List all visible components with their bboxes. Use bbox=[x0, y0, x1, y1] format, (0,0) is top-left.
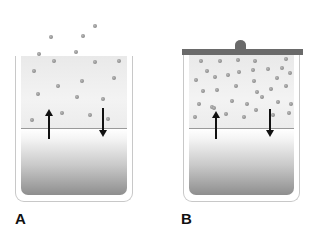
vapor-particle bbox=[280, 66, 284, 70]
vapor-particle bbox=[194, 78, 198, 82]
vapor-particle bbox=[260, 95, 264, 99]
vapor-particle bbox=[287, 111, 291, 115]
vapor-particle bbox=[245, 102, 249, 106]
vapor-particle bbox=[218, 59, 222, 63]
vapor-particle bbox=[251, 68, 255, 72]
vapor-particle bbox=[242, 115, 246, 119]
vapor-particle bbox=[52, 59, 56, 63]
vapor-particle bbox=[224, 112, 228, 116]
vapor-particle bbox=[234, 84, 238, 88]
vapor-particle bbox=[193, 115, 197, 119]
vapor-particle bbox=[212, 106, 216, 110]
condensation-arrow-icon bbox=[269, 109, 271, 132]
vapor-particle bbox=[49, 35, 53, 39]
vapor-particle bbox=[197, 102, 201, 106]
vapor-particle bbox=[275, 76, 279, 80]
vapor-particle bbox=[253, 59, 257, 63]
vapor-particle bbox=[101, 97, 105, 101]
vapor-particle bbox=[81, 34, 85, 38]
vapor-particle bbox=[276, 100, 280, 104]
vapor-particle bbox=[226, 73, 230, 77]
beaker-a-liquid bbox=[21, 129, 127, 195]
vapor-particle bbox=[288, 71, 292, 75]
vapor-particle bbox=[230, 99, 234, 103]
panel-b-closed-container: B bbox=[160, 0, 317, 243]
vapor-particle bbox=[255, 90, 259, 94]
condensation-arrow-icon bbox=[102, 108, 104, 132]
vapor-particle bbox=[80, 79, 84, 83]
lid-knob-icon bbox=[235, 40, 246, 50]
vapor-particle bbox=[252, 79, 256, 83]
evaporation-arrow-icon bbox=[215, 116, 217, 139]
vapor-particle bbox=[75, 95, 79, 99]
vapor-particle bbox=[60, 111, 64, 115]
vapor-particle bbox=[237, 70, 241, 74]
vapor-particle bbox=[205, 69, 209, 73]
vapor-particle bbox=[74, 50, 78, 54]
vapor-particle bbox=[269, 87, 273, 91]
evaporation-arrow-icon bbox=[48, 114, 50, 139]
vapor-particle bbox=[106, 117, 110, 121]
vapor-particle bbox=[254, 108, 258, 112]
vapor-particle bbox=[199, 59, 203, 63]
vapor-particle bbox=[56, 84, 60, 88]
vapor-particle bbox=[93, 24, 97, 28]
vapor-particle bbox=[93, 60, 97, 64]
vapor-particle bbox=[112, 76, 116, 80]
vapor-particle bbox=[30, 118, 34, 122]
vapor-particle bbox=[36, 92, 40, 96]
panel-a-label: A bbox=[15, 210, 26, 227]
vapor-particle bbox=[284, 84, 288, 88]
panel-b-label: B bbox=[181, 210, 192, 227]
vapor-particle bbox=[88, 113, 92, 117]
vapor-particle bbox=[117, 59, 121, 63]
vapor-particle bbox=[266, 67, 270, 71]
vapor-particle bbox=[215, 88, 219, 92]
vapor-particle bbox=[213, 75, 217, 79]
vapor-particle bbox=[32, 69, 36, 73]
vapor-particle bbox=[236, 58, 240, 62]
vapor-particle bbox=[284, 57, 288, 61]
vapor-particle bbox=[37, 52, 41, 56]
vapor-particle bbox=[289, 102, 293, 106]
vapor-particle bbox=[271, 113, 275, 117]
panel-a-open-container: A bbox=[0, 0, 160, 243]
beaker-b-liquid bbox=[189, 129, 294, 195]
vapor-particle bbox=[201, 89, 205, 93]
